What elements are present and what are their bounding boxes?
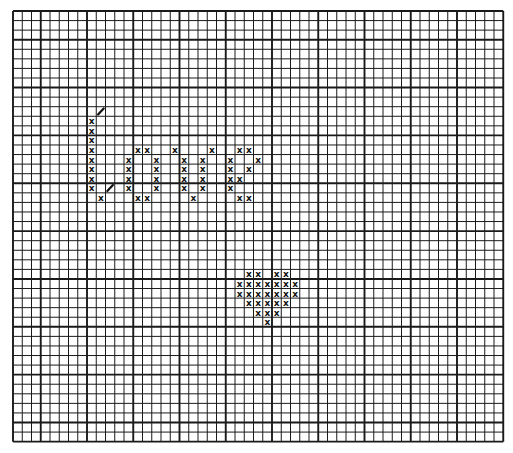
cross-stitch-icon: x <box>246 164 252 174</box>
cross-stitch-icon: x <box>227 155 233 165</box>
cross-stitch-icon: x <box>227 174 233 184</box>
cross-stitch-icon: x <box>135 193 141 203</box>
cross-stitch-icon: x <box>89 145 95 155</box>
cross-stitch-icon: x <box>237 193 243 203</box>
cross-stitch-icon: x <box>274 298 280 308</box>
cross-stitch-icon: x <box>135 145 141 155</box>
cross-stitch-icon: x <box>181 183 187 193</box>
cross-stitch-icon: x <box>209 145 215 155</box>
cross-stitch-icon: x <box>227 164 233 174</box>
cross-stitch-icon: x <box>274 269 280 279</box>
cross-stitch-icon: x <box>255 269 261 279</box>
cross-stitch-icon: x <box>153 164 159 174</box>
cross-stitch-icon: x <box>246 298 252 308</box>
cross-stitch-icon: x <box>190 193 196 203</box>
cross-stitch-icon: x <box>237 279 243 289</box>
cross-stitch-icon: x <box>200 183 206 193</box>
cross-stitch-icon: x <box>274 308 280 318</box>
cross-stitch-icon: x <box>264 298 270 308</box>
cross-stitch-icon: x <box>283 298 289 308</box>
cross-stitch-icon: x <box>292 289 298 299</box>
cross-stitch-icon: x <box>144 145 150 155</box>
cross-stitch-chart: xxxxxxxxxxxxxxxxxxxxxxxxxxxxxxxxxxxxxxxx… <box>0 0 513 453</box>
cross-stitch-icon: x <box>246 193 252 203</box>
cross-stitch-icon: x <box>274 279 280 289</box>
cross-stitch-icon: x <box>153 183 159 193</box>
cross-stitch-icon: x <box>126 183 132 193</box>
cross-stitch-icon: x <box>255 155 261 165</box>
cross-stitch-icon: x <box>255 289 261 299</box>
cross-stitch-icon: x <box>89 116 95 126</box>
stitch-marks: xxxxxxxxxxxxxxxxxxxxxxxxxxxxxxxxxxxxxxxx… <box>89 109 299 328</box>
cross-stitch-icon: x <box>246 145 252 155</box>
cross-stitch-icon: x <box>237 289 243 299</box>
cross-stitch-icon: x <box>264 308 270 318</box>
cross-stitch-icon: x <box>89 155 95 165</box>
half-stitch-icon <box>107 185 113 191</box>
cross-stitch-icon: x <box>264 317 270 327</box>
cross-stitch-icon: x <box>283 279 289 289</box>
cross-stitch-icon: x <box>98 193 104 203</box>
cross-stitch-icon: x <box>200 155 206 165</box>
cross-stitch-icon: x <box>181 174 187 184</box>
half-stitch-icon <box>98 109 104 115</box>
cross-stitch-icon: x <box>89 183 95 193</box>
cross-stitch-icon: x <box>153 155 159 165</box>
cross-stitch-icon: x <box>274 289 280 299</box>
cross-stitch-icon: x <box>153 174 159 184</box>
cross-stitch-icon: x <box>283 269 289 279</box>
cross-stitch-icon: x <box>126 164 132 174</box>
cross-stitch-icon: x <box>292 279 298 289</box>
cross-stitch-icon: x <box>255 279 261 289</box>
cross-stitch-icon: x <box>172 145 178 155</box>
cross-stitch-icon: x <box>89 164 95 174</box>
cross-stitch-icon: x <box>246 279 252 289</box>
cross-stitch-icon: x <box>89 126 95 136</box>
cross-stitch-icon: x <box>227 183 233 193</box>
cross-stitch-icon: x <box>181 155 187 165</box>
cross-stitch-icon: x <box>246 269 252 279</box>
cross-stitch-icon: x <box>200 164 206 174</box>
cross-stitch-icon: x <box>89 174 95 184</box>
cross-stitch-icon: x <box>200 174 206 184</box>
cross-stitch-icon: x <box>237 145 243 155</box>
cross-stitch-icon: x <box>126 155 132 165</box>
cross-stitch-icon: x <box>181 164 187 174</box>
grid-lines <box>13 11 503 442</box>
cross-stitch-icon: x <box>144 193 150 203</box>
cross-stitch-icon: x <box>255 308 261 318</box>
cross-stitch-icon: x <box>126 174 132 184</box>
cross-stitch-icon: x <box>264 289 270 299</box>
cross-stitch-icon: x <box>283 289 289 299</box>
graph-paper-grid: xxxxxxxxxxxxxxxxxxxxxxxxxxxxxxxxxxxxxxxx… <box>0 0 513 453</box>
cross-stitch-icon: x <box>237 174 243 184</box>
cross-stitch-icon: x <box>255 298 261 308</box>
cross-stitch-icon: x <box>89 135 95 145</box>
cross-stitch-icon: x <box>246 289 252 299</box>
cross-stitch-icon: x <box>264 279 270 289</box>
